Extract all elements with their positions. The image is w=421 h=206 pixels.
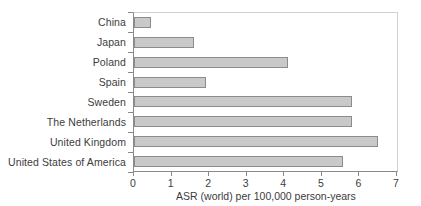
category-label: Spain — [0, 72, 131, 92]
x-axis-tick-labels: 01234567 — [133, 176, 399, 190]
bar-row — [134, 92, 397, 112]
bar-row — [134, 13, 397, 33]
x-axis-tick-label: 3 — [243, 176, 249, 190]
category-label: United States of America — [0, 152, 131, 172]
bar-china — [134, 17, 151, 28]
bar-sweden — [134, 96, 352, 107]
bar-spain — [134, 77, 206, 88]
bar-series — [134, 13, 397, 171]
bar-japan — [134, 37, 194, 48]
x-axis-title: ASR (world) per 100,000 person-years — [133, 190, 399, 202]
bar-row — [134, 72, 397, 92]
x-axis-tick-label: 4 — [280, 176, 286, 190]
category-label: The Netherlands — [0, 112, 131, 132]
bar-row — [134, 112, 397, 132]
bar-chart: China Japan Poland Spain Sweden The Neth… — [0, 0, 421, 206]
category-axis: China Japan Poland Spain Sweden The Neth… — [0, 12, 131, 172]
bar-united-kingdom — [134, 136, 378, 147]
bar-the-netherlands — [134, 116, 352, 127]
x-axis-tick-label: 0 — [130, 176, 136, 190]
bar-poland — [134, 57, 288, 68]
x-axis-tick-label: 7 — [393, 176, 399, 190]
category-label: Sweden — [0, 92, 131, 112]
bar-row — [134, 132, 397, 152]
bar-row — [134, 53, 397, 73]
bar-row — [134, 151, 397, 171]
x-axis-tick-label: 5 — [318, 176, 324, 190]
bar-row — [134, 33, 397, 53]
category-label: Japan — [0, 32, 131, 52]
plot-area — [133, 12, 398, 172]
category-label: United Kingdom — [0, 132, 131, 152]
x-axis-tick-label: 2 — [205, 176, 211, 190]
category-label: China — [0, 12, 131, 32]
category-label: Poland — [0, 52, 131, 72]
x-axis-tick-label: 6 — [356, 176, 362, 190]
x-axis-tick-label: 1 — [168, 176, 174, 190]
bar-united-states-of-america — [134, 156, 343, 167]
